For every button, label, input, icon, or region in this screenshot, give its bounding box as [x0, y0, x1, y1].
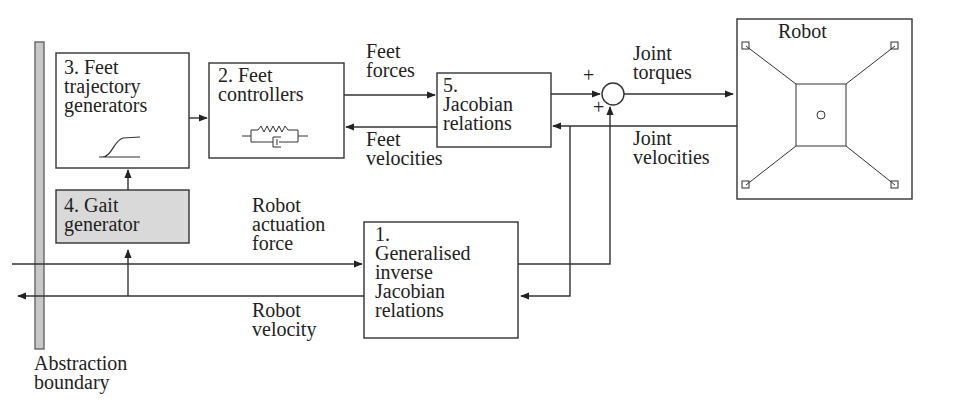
feet-controllers-label: 2. Feet controllers	[218, 66, 304, 104]
feet-trajectory-label: 3. Feet trajectory generators	[64, 58, 147, 115]
summing-junction	[602, 83, 624, 105]
generalised-label: 1. Generalised inverse Jacobian relation…	[375, 225, 471, 320]
robot-label: Robot	[778, 22, 827, 41]
feet-forces-label: Feet forces	[366, 42, 415, 80]
robot-velocity-label: Robot velocity	[252, 301, 316, 339]
robot-actuation-force-label: Robot actuation force	[252, 196, 325, 253]
plus-sign-bottom: +	[593, 98, 604, 117]
abstraction-boundary-bar	[35, 42, 44, 349]
feet-velocities-label: Feet velocities	[366, 130, 443, 168]
jacobian-label: 5. Jacobian relations	[443, 76, 513, 133]
plus-sign-top: +	[583, 66, 594, 85]
joint-torques-label: Joint torques	[633, 44, 692, 82]
abstraction-boundary-label: Abstraction boundary	[34, 354, 127, 392]
gait-generator-label: 4. Gait generator	[64, 196, 140, 234]
joint-velocities-label: Joint velocities	[633, 129, 710, 167]
control-block-diagram: 3. Feet trajectory generators 4. Gait ge…	[0, 0, 955, 406]
